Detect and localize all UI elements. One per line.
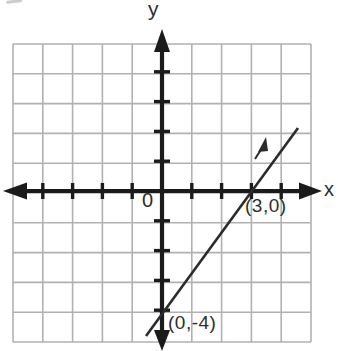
x-axis-left-arrow [3,183,27,200]
graph-canvas [0,0,338,351]
y-intercept-label: (0,-4) [168,313,216,332]
x-axis-label: x [324,179,334,199]
line-direction-arrow [258,137,268,152]
line-direction-arrow-tail [255,148,262,159]
x-intercept-label: (3,0) [245,196,287,215]
y-axis-label: y [148,0,159,19]
y-axis-top-arrow [154,29,170,52]
coordinate-plane-figure: y x 0 (3,0) (0,-4) [0,0,338,351]
y-axis-bottom-arrow [154,330,170,351]
origin-label: 0 [142,190,153,210]
